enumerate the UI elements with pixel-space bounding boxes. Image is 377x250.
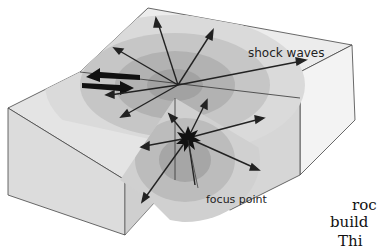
- cut-off-text-line-3: Thi: [338, 232, 362, 250]
- label-shock-waves: shock waves: [248, 46, 324, 60]
- cut-off-text-line-1: roc: [352, 196, 377, 214]
- label-focus-point: focus point: [206, 193, 267, 206]
- cut-off-text-line-2: build: [330, 213, 368, 231]
